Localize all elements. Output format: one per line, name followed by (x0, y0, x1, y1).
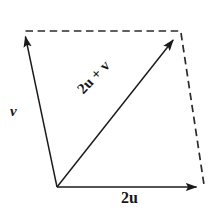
vector-label-2u: 2u (121, 190, 138, 206)
dashed-line-right (181, 33, 204, 186)
vector-diagram-canvas (0, 0, 213, 210)
vector-sum-arrow (57, 40, 173, 187)
vector-label-v: v (10, 104, 17, 119)
vector-v-arrow (25, 37, 57, 188)
vector-diagram-figure: v 2u 2u + v (0, 0, 213, 210)
